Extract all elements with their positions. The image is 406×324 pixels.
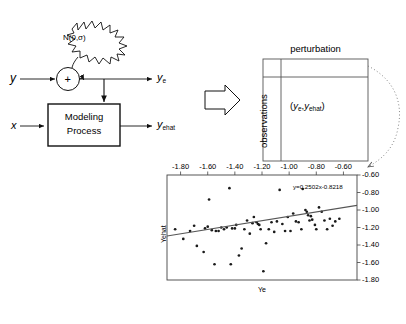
scatter-point xyxy=(292,212,295,215)
noise-starburst-icon xyxy=(67,21,127,64)
input-x-label: x xyxy=(11,120,17,131)
scatter-point xyxy=(228,187,231,190)
figure-canvas: N(0,σ) y x + Modeling Process ye yehat p… xyxy=(0,0,406,324)
scatter-point xyxy=(238,254,241,257)
output-ye-subscript: e xyxy=(163,77,167,84)
y-tick-label: -0.80 xyxy=(362,189,379,197)
scatter-point xyxy=(318,206,321,209)
y-tick-label: -1.80 xyxy=(362,276,379,284)
scatter-point xyxy=(310,215,313,218)
y-tick-label: -1.00 xyxy=(362,206,379,214)
scatter-point xyxy=(273,231,276,234)
y-tick-label: -1.40 xyxy=(362,241,379,249)
scatter-point xyxy=(206,225,209,228)
scatter-point xyxy=(308,219,311,222)
scatter-point xyxy=(334,220,337,223)
summing-plus-label: + xyxy=(65,74,71,85)
scatter-point xyxy=(246,219,249,222)
output-yehat-base: y xyxy=(157,118,163,130)
y-tick-label: -1.60 xyxy=(362,259,379,267)
scatter-point xyxy=(196,245,199,248)
x-tick-label: -1.40 xyxy=(221,163,249,171)
scatter-point xyxy=(289,230,292,233)
block-diagram-group xyxy=(20,21,240,146)
output-ye-base: y xyxy=(157,71,163,83)
scatter-point xyxy=(331,224,334,227)
input-y-label: y xyxy=(10,72,16,84)
x-tick-label: -1.80 xyxy=(167,163,195,171)
scatter-point xyxy=(223,228,226,231)
plot-frame xyxy=(167,175,357,280)
scatter-point xyxy=(281,223,284,226)
output-yehat-subscript: ehat xyxy=(163,124,176,131)
x-axis-title: Ye xyxy=(167,286,357,293)
scatter-point xyxy=(229,263,232,266)
modeling-process-label-line1: Modeling xyxy=(56,112,112,122)
scatter-point xyxy=(311,218,314,221)
scatter-point xyxy=(208,198,211,201)
output-yehat-label: yehat xyxy=(157,119,175,130)
scatter-point xyxy=(258,224,261,227)
scatter-point xyxy=(297,221,300,224)
scatter-point xyxy=(248,232,251,235)
matrix-cell-content: (ye,yehat) xyxy=(290,101,325,111)
y-tick-label: -1.20 xyxy=(362,224,379,232)
scatter-point xyxy=(338,217,341,220)
y-axis-title: Yehat xyxy=(160,225,167,243)
scatter-point xyxy=(240,247,243,250)
scatter-point xyxy=(193,224,196,227)
scatter-point xyxy=(253,216,256,219)
trendline-equation-label: y=0.2502x-0.8218 xyxy=(293,184,343,190)
x-tick-label: -1.60 xyxy=(194,163,222,171)
y-tick-label: -0.60 xyxy=(362,171,379,179)
matrix-cell-close-paren: ) xyxy=(322,100,325,111)
scatter-point xyxy=(267,228,270,231)
scatter-point xyxy=(202,251,205,254)
output-ye-label: ye xyxy=(157,72,166,83)
scatter-point xyxy=(231,227,234,230)
scatter-point xyxy=(276,220,279,223)
scatter-point xyxy=(259,228,262,231)
x-tick-label: -0.60 xyxy=(329,163,357,171)
scatter-point xyxy=(307,214,310,217)
matrix-cell-ye-subscript: e xyxy=(298,105,302,112)
x-tick-label: -1.00 xyxy=(275,163,303,171)
scatter-point xyxy=(315,228,318,231)
x-tick-label: -1.20 xyxy=(248,163,276,171)
scatter-point xyxy=(323,219,326,222)
scatter-point xyxy=(278,189,281,192)
scatter-point xyxy=(174,228,177,231)
matrix-cell-yehat-subscript: ehat xyxy=(309,105,322,112)
noise-label: N(0,σ) xyxy=(63,34,86,42)
scatter-point xyxy=(295,220,298,223)
matrix-row-header: observations xyxy=(259,94,269,148)
scatter-point xyxy=(326,228,329,231)
matrix-column-header: perturbation xyxy=(263,44,368,54)
scatter-point xyxy=(182,238,185,241)
scatter-point xyxy=(262,270,265,273)
scatter-point xyxy=(213,263,216,266)
block-arrow-right-icon xyxy=(205,85,240,115)
scatter-point xyxy=(314,224,317,227)
scatter-point xyxy=(234,227,237,230)
scatter-point xyxy=(265,242,268,245)
scatter-point xyxy=(217,230,220,233)
scatter-point xyxy=(284,230,287,233)
modeling-process-label-line2: Process xyxy=(56,126,112,136)
scatter-point xyxy=(329,217,332,220)
scatter-point xyxy=(305,210,308,213)
scatter-point xyxy=(215,230,218,233)
matrix-to-plot-connector xyxy=(368,66,400,167)
scatter-point xyxy=(300,228,303,231)
scatter-point xyxy=(243,228,246,231)
scatter-point xyxy=(270,221,273,224)
x-tick-label: -0.80 xyxy=(302,163,330,171)
